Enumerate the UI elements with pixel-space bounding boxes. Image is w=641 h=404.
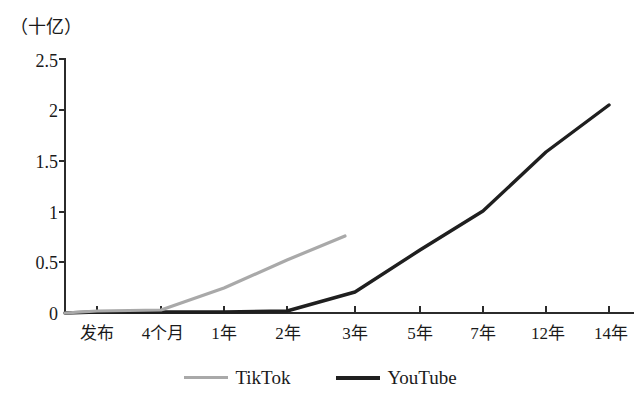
legend-line-icon-tiktok — [184, 376, 228, 379]
x-tick-label-1: 4个月 — [142, 325, 185, 342]
x-tick-label-0: 发布 — [80, 325, 114, 342]
chart-legend: TikTok YouTube — [0, 368, 641, 387]
x-tick-label-3: 2年 — [275, 325, 301, 342]
legend-item-tiktok: TikTok — [184, 368, 290, 387]
series-line-tiktok — [65, 236, 345, 313]
x-tick-label-2: 1年 — [211, 325, 237, 342]
legend-line-icon-youtube — [336, 376, 380, 380]
x-tick-label-6: 7年 — [470, 325, 496, 342]
x-tick-label-5: 5年 — [407, 325, 433, 342]
series-line-youtube — [65, 105, 609, 313]
x-tick-label-7: 12年 — [531, 325, 565, 342]
legend-label-tiktok: TikTok — [235, 368, 290, 387]
legend-label-youtube: YouTube — [387, 368, 456, 387]
plot-area — [0, 0, 641, 404]
line-chart: （十亿） 2.5 2 1.5 1 0.5 0 — [0, 0, 641, 404]
x-tick-label-8: 14年 — [594, 325, 628, 342]
legend-item-youtube: YouTube — [336, 368, 456, 387]
x-tick-label-4: 3年 — [342, 325, 368, 342]
